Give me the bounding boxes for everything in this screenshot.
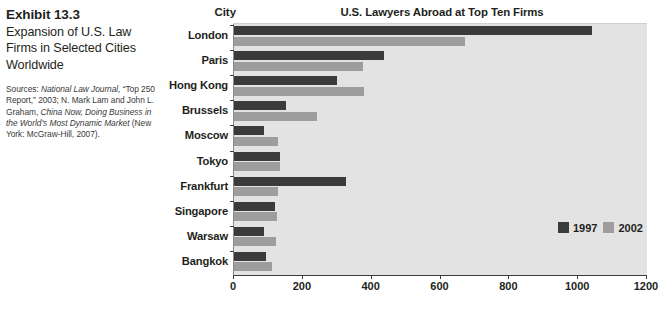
x-axis-tick (508, 275, 509, 279)
legend-swatch-2002-icon (603, 222, 614, 233)
bar-2002 (234, 62, 363, 71)
legend-item-1997: 1997 (558, 222, 597, 234)
plot-area: 1997 2002 (233, 24, 647, 275)
sources-note: Sources: National Law Journal, “Top 250 … (6, 84, 156, 140)
y-axis-label-singapore: Singapore (160, 205, 228, 217)
bar-1997 (234, 152, 280, 161)
legend-label-2002: 2002 (618, 222, 642, 234)
bar-1997 (234, 76, 337, 85)
y-axis-label-hong-kong: Hong Kong (160, 79, 228, 91)
chart: City U.S. Lawyers Abroad at Top Ten Firm… (160, 0, 658, 314)
x-axis-tick (646, 275, 647, 279)
y-axis-label-tokyo: Tokyo (160, 155, 228, 167)
bar-2002 (234, 112, 317, 121)
bar-group (234, 100, 647, 125)
x-axis-tick (371, 275, 372, 279)
bar-group (234, 151, 647, 176)
y-axis-labels: LondonParisHong KongBrusselsMoscowTokyoF… (160, 24, 228, 275)
x-axis-tick (302, 275, 303, 279)
bar-2002 (234, 162, 280, 171)
y-axis-label-bangkok: Bangkok (160, 255, 228, 267)
y-axis-label-moscow: Moscow (160, 129, 228, 141)
x-axis-label: 800 (483, 280, 533, 292)
sources-journal: National Law Journal, (41, 84, 121, 94)
bar-2002 (234, 262, 272, 271)
x-axis-label: 400 (346, 280, 396, 292)
x-axis-label: 200 (277, 280, 327, 292)
y-axis-label-brussels: Brussels (160, 104, 228, 116)
bar-1997 (234, 126, 264, 135)
bar-group (234, 25, 647, 50)
y-axis-title: City (160, 6, 236, 18)
bar-1997 (234, 51, 384, 60)
y-axis-label-frankfurt: Frankfurt (160, 180, 228, 192)
legend: 1997 2002 (552, 218, 649, 237)
bar-1997 (234, 202, 275, 211)
exhibit-title: Expansion of U.S. Law Firms in Selected … (6, 24, 156, 73)
x-axis-tick (233, 275, 234, 279)
legend-label-1997: 1997 (573, 222, 597, 234)
bar-group (234, 125, 647, 150)
bar-2002 (234, 237, 276, 246)
bar-1997 (234, 252, 266, 261)
bar-group (234, 176, 647, 201)
bar-group (234, 50, 647, 75)
exhibit-number: Exhibit 13.3 (6, 6, 156, 23)
bar-group (234, 251, 647, 276)
bar-1997 (234, 227, 264, 236)
x-axis-tick (440, 275, 441, 279)
x-axis-label: 0 (208, 280, 258, 292)
bar-1997 (234, 26, 592, 35)
bar-2002 (234, 187, 278, 196)
x-axis-label: 1000 (552, 280, 602, 292)
y-axis-label-london: London (160, 29, 228, 41)
bar-2002 (234, 137, 278, 146)
legend-item-2002: 2002 (603, 222, 642, 234)
bar-rows (234, 24, 647, 275)
bar-group (234, 75, 647, 100)
bar-2002 (234, 87, 364, 96)
y-axis-label-warsaw: Warsaw (160, 230, 228, 242)
x-axis-label: 1200 (621, 280, 663, 292)
y-axis-label-paris: Paris (160, 54, 228, 66)
bar-1997 (234, 101, 286, 110)
bar-2002 (234, 37, 465, 46)
caption-block: Exhibit 13.3 Expansion of U.S. Law Firms… (6, 6, 156, 140)
x-axis-tick (577, 275, 578, 279)
bar-1997 (234, 177, 346, 186)
legend-swatch-1997-icon (558, 222, 569, 233)
x-axis-label: 600 (415, 280, 465, 292)
bar-2002 (234, 212, 277, 221)
sources-label: Sources: (6, 84, 39, 94)
chart-title: U.S. Lawyers Abroad at Top Ten Firms (232, 6, 652, 18)
